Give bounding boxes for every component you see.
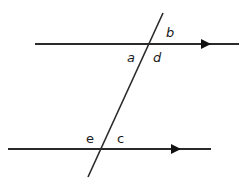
angle-label-c: c <box>117 131 124 146</box>
angle-label-a: a <box>127 50 135 65</box>
angle-label-b: b <box>166 25 174 40</box>
angle-label-d: d <box>153 50 162 65</box>
top-line-arrow-icon <box>201 39 211 49</box>
transversal-line <box>88 13 163 177</box>
angle-label-e: e <box>86 131 94 146</box>
bottom-line-arrow-icon <box>171 144 181 154</box>
parallel-lines-diagram: b a d e c <box>0 0 242 184</box>
